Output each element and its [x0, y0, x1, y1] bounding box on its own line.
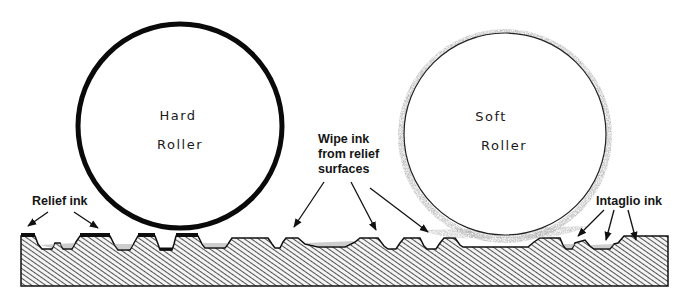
intaglio-ink-label: Intaglio ink [596, 194, 662, 208]
hard-roller-label-line1: Hard [159, 108, 196, 123]
wipe-ink-label-line1: Wipe ink [318, 132, 369, 146]
wipe-ink-label-line2: from relief [318, 147, 380, 161]
plate [21, 235, 668, 286]
soft-roller-label-line2: Roller [481, 138, 527, 153]
soft-roller-circle [404, 33, 606, 235]
hard-roller-label-line2: Roller [157, 137, 203, 152]
wipe-ink-arrow-1 [294, 182, 324, 227]
intaglio-ink-arrow-1 [578, 210, 604, 236]
soft-roller: Soft Roller [401, 32, 609, 240]
intaglio-ink-callout: Intaglio ink [578, 194, 662, 240]
printing-diagram: Hard Roller Soft Roller Relief ink Wipe … [0, 0, 694, 300]
relief-ink-arrow-2 [74, 212, 98, 228]
relief-ink-label: Relief ink [32, 194, 88, 208]
relief-ink-arrow-1 [28, 212, 48, 226]
hard-roller-circle [78, 24, 282, 228]
wipe-ink-label-line3: surfaces [318, 162, 369, 176]
hard-roller: Hard Roller [78, 24, 282, 228]
soft-roller-label-line1: Soft [475, 109, 507, 124]
relief-ink-callout: Relief ink [28, 194, 98, 228]
intaglio-ink-arrow-2 [606, 210, 614, 240]
